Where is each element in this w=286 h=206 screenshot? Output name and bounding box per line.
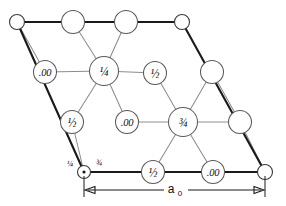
- atom-height-label: .00: [121, 117, 134, 128]
- atom-quarter: ¼: [90, 57, 119, 86]
- atom-height-label: .00: [207, 167, 220, 178]
- dimension-arrow-a0: a 0: [84, 176, 265, 198]
- atom-circle: [10, 15, 25, 30]
- atom-half-left: ½: [61, 111, 84, 134]
- corner-annotation-bl-left-frac: ¼: [67, 159, 73, 168]
- atom-height-label: ½: [149, 166, 158, 180]
- atom-circle: [201, 61, 224, 84]
- atom-right-low: [229, 111, 252, 134]
- atom-circle: [62, 11, 85, 34]
- atom-corner-tr: [175, 15, 190, 30]
- cell-edge-left: [17, 22, 84, 172]
- atom-height-label: ½: [68, 116, 77, 130]
- atom-layer: .00¼½½.00¾½.00: [10, 11, 273, 184]
- dimension-label: a: [168, 182, 175, 196]
- unit-cell-edges: [17, 22, 265, 172]
- atom-center-dot: [82, 170, 85, 173]
- atom-three-quart: ¾: [169, 108, 198, 137]
- atom-circle: [229, 111, 252, 134]
- atom-corner-tl: [10, 15, 25, 30]
- atom-center-00: .00: [116, 111, 139, 134]
- atom-height-label: .00: [39, 67, 52, 78]
- atom-circle: [175, 15, 190, 30]
- atom-left-00: .00: [34, 61, 57, 84]
- atom-circle: [115, 11, 138, 34]
- atom-top-b: [115, 11, 138, 34]
- dimension-label-subscript: 0: [178, 189, 183, 198]
- atom-right-mid: [201, 61, 224, 84]
- atom-half-upper: ½: [144, 62, 167, 85]
- atom-height-label: ¼: [100, 65, 109, 79]
- atom-bottom-00: .00: [202, 161, 225, 184]
- atom-height-label: ¾: [179, 116, 188, 130]
- unit-cell-diagram: .00¼½½.00¾½.00 ¼¾ a 0: [0, 0, 286, 206]
- bond-network: [17, 22, 265, 172]
- crystal-structure-figure: .00¼½½.00¾½.00 ¼¾ a 0: [0, 0, 286, 206]
- cell-edge-right: [182, 22, 265, 172]
- atom-half-bottom: ½: [142, 161, 165, 184]
- atom-top-a: [62, 11, 85, 34]
- corner-annotation-bl-right-frac: ¾: [96, 158, 102, 167]
- atom-height-label: ½: [151, 67, 160, 81]
